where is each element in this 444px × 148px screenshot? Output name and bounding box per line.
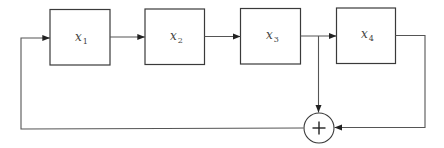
- block-x4: x4: [337, 8, 396, 64]
- feedback-diagram: x1 x2 x3 x4: [0, 0, 444, 148]
- adder-node: [304, 113, 334, 143]
- block-x1: x1: [50, 10, 110, 66]
- block-x2: x2: [145, 9, 205, 65]
- block-x3: x3: [241, 9, 301, 65]
